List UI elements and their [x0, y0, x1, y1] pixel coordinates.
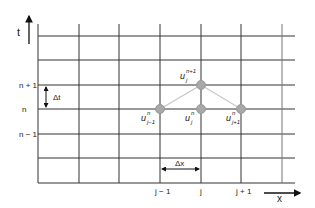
- svg-text:u: u: [226, 113, 231, 123]
- col-label-j: j: [199, 187, 202, 196]
- dx-marker: Δx: [162, 159, 199, 169]
- col-label-j-plus-1: j + 1: [235, 187, 252, 196]
- dt-marker: Δt: [46, 87, 61, 107]
- x-axis: x: [264, 193, 300, 204]
- node-labels: u j n+1 u j−1 n u j n u j+1 n: [141, 68, 240, 125]
- svg-text:j: j: [185, 77, 188, 83]
- svg-text:n: n: [232, 110, 236, 116]
- x-axis-label: x: [277, 193, 282, 204]
- svg-text:u: u: [185, 113, 190, 123]
- row-label-n-plus-1: n + 1: [19, 81, 38, 90]
- svg-text:j: j: [190, 119, 193, 125]
- svg-text:n: n: [191, 110, 195, 116]
- node-u-j-n: [197, 105, 206, 114]
- row-labels: n + 1 n n − 1: [19, 81, 38, 139]
- node-u-j-minus-1-n: [156, 105, 165, 114]
- column-labels: j − 1 j j + 1: [154, 187, 252, 196]
- row-label-n: n: [22, 105, 26, 114]
- svg-text:j−1: j−1: [146, 119, 155, 125]
- node-u-j-plus-1-n: [237, 105, 246, 114]
- t-axis-label: t: [17, 26, 20, 38]
- svg-text:n+1: n+1: [186, 68, 196, 74]
- svg-text:j+1: j+1: [231, 119, 240, 125]
- label-u-j-minus-1-n: u j−1 n: [141, 110, 155, 125]
- svg-text:u: u: [180, 71, 185, 81]
- node-u-j-n-plus-1: [197, 81, 206, 90]
- svg-text:u: u: [141, 113, 146, 123]
- svg-text:n: n: [147, 110, 151, 116]
- label-u-j-n-plus-1: u j n+1: [180, 68, 196, 83]
- dx-label: Δx: [175, 159, 184, 168]
- row-label-n-minus-1: n − 1: [19, 130, 38, 139]
- grid: [38, 24, 295, 183]
- col-label-j-minus-1: j − 1: [154, 187, 171, 196]
- stencil-diagram: t x n + 1 n n − 1 Δt Δx j − 1 j j + 1: [0, 0, 315, 208]
- dt-label: Δt: [53, 93, 61, 102]
- t-axis: t: [17, 16, 29, 44]
- label-u-j-n: u j n: [185, 110, 195, 125]
